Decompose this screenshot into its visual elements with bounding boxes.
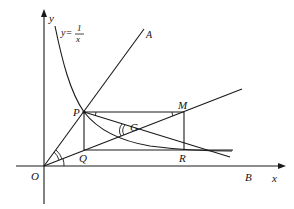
curve-label-denominator: x — [75, 34, 80, 44]
origin-label: O — [31, 170, 39, 182]
angle-mark-MOB — [63, 159, 64, 166]
curve-label: y= 1 x — [60, 23, 84, 44]
y-axis-label: y — [48, 12, 54, 24]
angle-mark-PMO — [172, 112, 173, 116]
angle-mark-G — [119, 124, 122, 136]
angle-mark-AOM-2 — [54, 152, 59, 160]
label-A: A — [145, 29, 153, 40]
ray-OA — [44, 29, 144, 166]
label-B: B — [245, 171, 252, 183]
y-axis — [41, 9, 47, 204]
geometry-figure: y x O y= 1 x A B P Q M R G — [0, 0, 294, 209]
label-M: M — [177, 99, 188, 111]
label-P: P — [72, 106, 80, 118]
angle-mark-AOM — [56, 150, 62, 159]
angle-mark-G-2 — [123, 125, 125, 135]
x-axis-label: x — [271, 172, 277, 184]
label-Q: Q — [79, 152, 87, 164]
ray-OM — [44, 89, 242, 166]
x-axis-arrow-icon — [278, 163, 286, 169]
y-axis-arrow-icon — [41, 9, 47, 17]
curve-label-prefix: y= — [60, 27, 72, 38]
x-axis — [16, 163, 286, 169]
hyperbola-curve — [55, 26, 232, 151]
label-G: G — [130, 121, 138, 133]
point-P-dot — [82, 110, 85, 113]
curve-label-numerator: 1 — [77, 23, 82, 33]
label-R: R — [178, 152, 186, 164]
